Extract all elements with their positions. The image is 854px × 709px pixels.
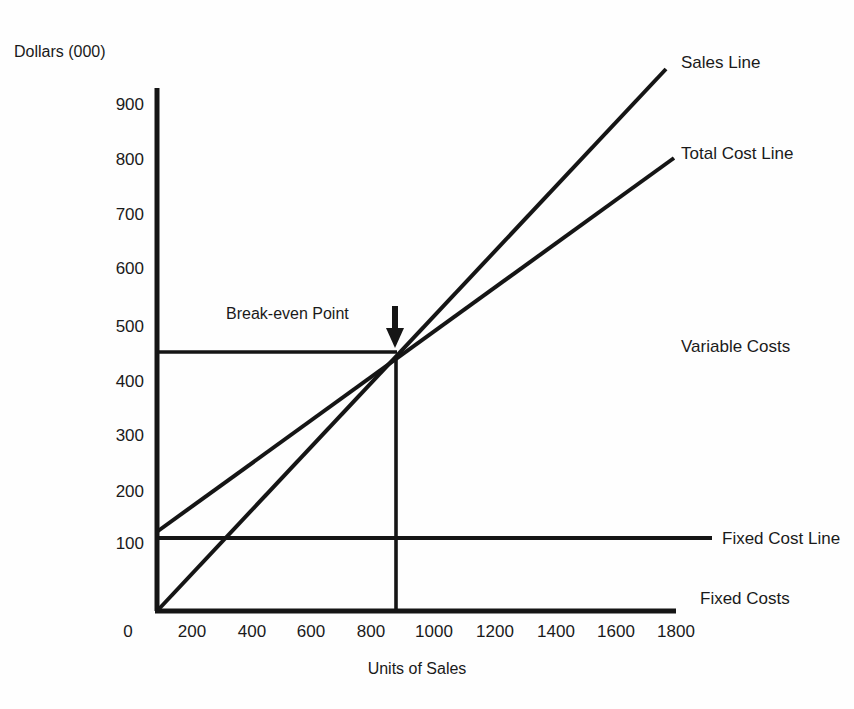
fixed-cost-line-label: Fixed Cost Line [722, 529, 840, 548]
y-tick-300: 300 [116, 426, 144, 445]
x-tick-600: 600 [297, 622, 325, 641]
y-tick-400: 400 [116, 372, 144, 391]
x-tick-0: 0 [123, 622, 132, 641]
x-tick-1400: 1400 [537, 622, 575, 641]
chart-canvas: Dollars (000) Break-even Point Sales Lin… [0, 0, 854, 709]
x-tick-800: 800 [357, 622, 385, 641]
fixed-costs-label: Fixed Costs [700, 589, 790, 608]
total-cost-line-label: Total Cost Line [681, 144, 793, 163]
x-tick-1800: 1800 [657, 622, 695, 641]
sales-line [158, 69, 666, 610]
break-even-point-label: Break-even Point [226, 305, 349, 322]
x-tick-1600: 1600 [597, 622, 635, 641]
sales-line-label: Sales Line [681, 53, 760, 72]
x-tick-400: 400 [238, 622, 266, 641]
break-even-down-arrow-icon [386, 306, 404, 348]
x-tick-200: 200 [178, 622, 206, 641]
total-cost-line [158, 158, 674, 531]
y-tick-600: 600 [116, 259, 144, 278]
y-tick-900: 900 [116, 95, 144, 114]
x-tick-1000: 1000 [415, 622, 453, 641]
x-tick-1200: 1200 [476, 622, 514, 641]
y-tick-700: 700 [116, 205, 144, 224]
y-tick-800: 800 [116, 150, 144, 169]
breakeven-chart-figure: Dollars (000) Break-even Point Sales Lin… [0, 0, 854, 709]
y-tick-100: 100 [116, 534, 144, 553]
y-tick-200: 200 [116, 482, 144, 501]
y-axis-title: Dollars (000) [14, 43, 106, 60]
variable-costs-label: Variable Costs [681, 337, 790, 356]
x-axis-title: Units of Sales [368, 660, 467, 677]
y-tick-500: 500 [116, 317, 144, 336]
